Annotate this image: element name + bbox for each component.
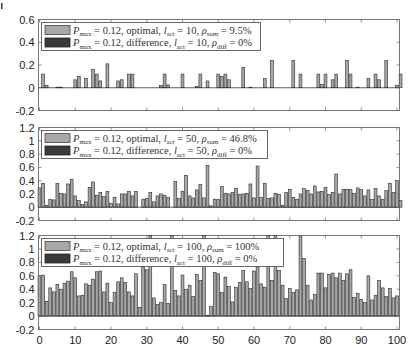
bar	[217, 74, 220, 88]
bar	[238, 283, 241, 317]
bar	[238, 195, 241, 208]
bar	[156, 305, 159, 316]
bar	[185, 175, 188, 207]
bar	[317, 74, 320, 88]
bar	[70, 272, 73, 316]
bar	[38, 276, 41, 316]
legend-swatch-optimal	[45, 134, 70, 143]
y-tick-label: -0.2	[16, 324, 35, 336]
bar	[263, 183, 266, 207]
bar	[342, 280, 345, 316]
bar	[92, 182, 95, 207]
bar	[356, 188, 359, 207]
bar	[102, 197, 105, 208]
bar	[174, 181, 177, 207]
bar	[381, 199, 384, 207]
bar	[63, 194, 66, 207]
bar	[120, 194, 123, 207]
x-tick-label: 60	[248, 334, 260, 346]
bar	[195, 274, 198, 316]
legend-swatch-optimal	[45, 26, 70, 35]
bar	[310, 300, 313, 316]
bar	[317, 273, 320, 316]
bar	[203, 198, 206, 207]
bar	[228, 287, 231, 317]
bar	[127, 74, 130, 88]
bar	[338, 194, 341, 207]
bar	[245, 282, 248, 316]
bar	[117, 204, 120, 207]
y-tick-label: 0	[28, 82, 34, 94]
bar	[142, 267, 145, 316]
y-tick-label: 0.2	[19, 188, 34, 200]
bar	[206, 81, 209, 88]
bar	[81, 295, 84, 316]
legend-swatch-difference	[45, 254, 70, 263]
bar	[381, 288, 384, 316]
panel-2: -0.200.20.40.60.811.2 Pmax = 0.12, optim…	[16, 122, 402, 227]
bar	[167, 303, 170, 316]
bar	[346, 274, 349, 316]
bar	[371, 199, 374, 207]
bar	[321, 84, 324, 87]
bar	[367, 276, 370, 316]
bar	[242, 67, 245, 87]
bar	[295, 290, 298, 316]
bar	[127, 191, 130, 207]
bar	[360, 189, 363, 207]
bar	[49, 288, 52, 316]
bar	[67, 281, 70, 316]
bar	[363, 303, 366, 316]
bar	[299, 194, 302, 207]
bar	[317, 192, 320, 207]
bar	[367, 190, 370, 207]
bar	[63, 283, 66, 316]
bar	[331, 193, 334, 208]
bar	[178, 199, 181, 208]
bar	[85, 202, 88, 207]
bar	[56, 285, 59, 317]
bar	[228, 80, 231, 88]
bar	[285, 193, 288, 208]
y-tick-label: 0.8	[19, 148, 34, 160]
legend-swatch-difference	[45, 146, 70, 155]
bar	[328, 274, 331, 316]
bar	[353, 193, 356, 207]
legend-swatch-difference	[45, 38, 70, 47]
bar	[349, 189, 352, 207]
bar	[135, 274, 138, 316]
x-tick-label: 90	[355, 334, 367, 346]
bar	[178, 296, 181, 316]
panel-3: -0.200.20.40.60.811.2 Pmax = 0.12, optim…	[16, 230, 400, 336]
legend: Pmax = 0.12, optimal, lact = 10, ρsum = …	[42, 23, 261, 51]
bar	[149, 193, 152, 208]
bar	[163, 74, 166, 88]
bar	[324, 288, 327, 316]
bar	[335, 174, 338, 207]
bar	[242, 194, 245, 207]
bar	[106, 283, 109, 316]
y-tick-label: 0.6	[19, 161, 34, 173]
bar	[163, 195, 166, 207]
y-tick-label: 0.2	[19, 59, 34, 71]
y-tick-label: 1.2	[19, 122, 34, 134]
bar	[388, 289, 391, 317]
x-tick-label: 30	[141, 334, 153, 346]
bar	[367, 79, 370, 88]
bar	[131, 196, 134, 207]
bar	[220, 76, 223, 87]
bar	[224, 74, 227, 88]
bar	[346, 189, 349, 207]
bar	[95, 74, 98, 88]
y-tick-label: 0	[28, 201, 34, 213]
bar	[392, 193, 395, 208]
bar	[310, 194, 313, 207]
bar	[131, 74, 134, 88]
y-tick-label: 1	[28, 135, 34, 147]
bar	[292, 60, 295, 87]
bar	[374, 74, 377, 88]
bar	[124, 283, 127, 317]
bar	[45, 301, 48, 316]
bar	[281, 285, 284, 316]
y-tick-label: 0.6	[19, 270, 34, 282]
